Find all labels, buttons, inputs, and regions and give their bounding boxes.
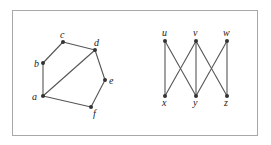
node-u xyxy=(163,39,167,43)
node-label-e: e xyxy=(109,75,114,86)
node-d xyxy=(93,48,97,52)
node-e xyxy=(103,78,107,82)
node-label-y: y xyxy=(192,97,198,108)
node-w xyxy=(225,39,229,43)
node-label-d: d xyxy=(94,37,100,48)
node-label-v: v xyxy=(193,27,198,38)
node-label-x: x xyxy=(161,97,167,108)
right-graph: uvwxyz xyxy=(161,27,230,108)
node-b xyxy=(41,61,45,65)
node-label-a: a xyxy=(32,91,37,102)
edge-a-d xyxy=(43,50,95,96)
graph-canvas: abcdefuvwxyz xyxy=(0,0,271,145)
node-v xyxy=(194,39,198,43)
node-label-u: u xyxy=(162,27,167,38)
node-label-z: z xyxy=(223,97,228,108)
left-graph: abcdef xyxy=(32,29,114,119)
node-c xyxy=(61,40,65,44)
node-label-f: f xyxy=(93,108,97,119)
edge-e-f xyxy=(91,80,105,107)
edge-f-a xyxy=(43,96,91,107)
edge-c-d xyxy=(63,42,95,50)
node-label-b: b xyxy=(34,58,39,69)
edge-b-c xyxy=(43,42,63,63)
node-label-c: c xyxy=(60,29,65,40)
node-a xyxy=(41,94,45,98)
node-label-w: w xyxy=(223,27,230,38)
edge-d-e xyxy=(95,50,105,80)
